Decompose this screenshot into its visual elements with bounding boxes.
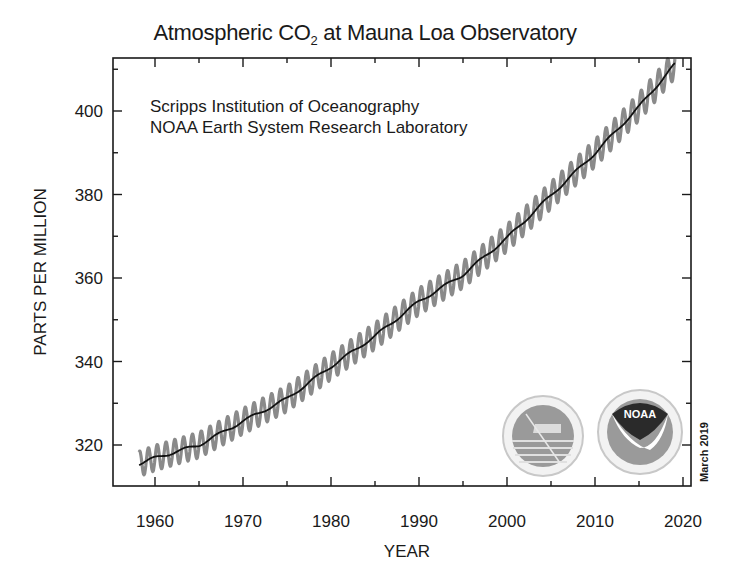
trend-line xyxy=(139,64,675,466)
x-tick-label: 2010 xyxy=(576,512,614,531)
y-tick-label: 360 xyxy=(75,269,103,288)
monthly-mean-line xyxy=(139,59,675,475)
y-tick-label: 380 xyxy=(75,186,103,205)
x-tick-label: 1980 xyxy=(312,512,350,531)
co2-chart: 1960197019801990200020102020320340360380… xyxy=(0,0,730,585)
x-tick-label: 2020 xyxy=(664,512,702,531)
y-tick-label: 400 xyxy=(75,102,103,121)
x-tick-label: 1960 xyxy=(136,512,174,531)
scripps-logo-icon xyxy=(503,396,583,476)
svg-text:NOAA: NOAA xyxy=(624,408,656,420)
logos: NOAA xyxy=(503,390,682,476)
x-tick-label: 1990 xyxy=(400,512,438,531)
x-tick-label: 1970 xyxy=(224,512,262,531)
date-stamp: March 2019 xyxy=(698,422,710,482)
axes: 1960197019801990200020102020320340360380… xyxy=(31,58,702,561)
y-tick-label: 340 xyxy=(75,353,103,372)
noaa-logo-icon: NOAA xyxy=(598,390,682,474)
x-tick-label: 2000 xyxy=(488,512,526,531)
y-tick-label: 320 xyxy=(75,436,103,455)
y-axis-title: PARTS PER MILLION xyxy=(31,188,50,356)
x-axis-title: YEAR xyxy=(384,542,430,561)
